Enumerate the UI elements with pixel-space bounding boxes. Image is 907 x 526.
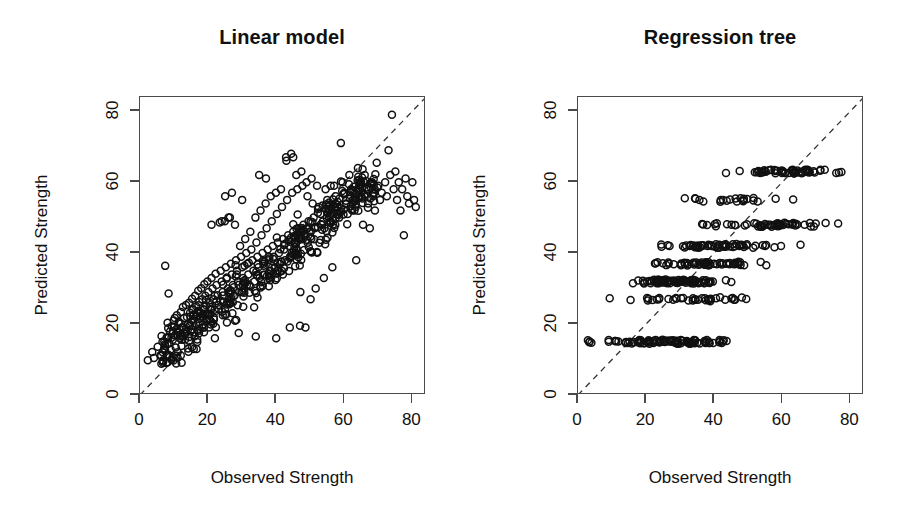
- scatter-canvas-linear-model: [140, 97, 424, 393]
- scatter-point: [371, 207, 378, 214]
- scatter-point: [390, 186, 397, 193]
- y-axis-tick: [130, 251, 139, 252]
- scatter-point: [821, 166, 828, 173]
- scatter-point: [627, 296, 634, 303]
- x-axis-tick-label: 0: [134, 410, 143, 430]
- scatter-point: [268, 218, 275, 225]
- scatter-point: [286, 324, 293, 331]
- scatter-point: [822, 219, 829, 226]
- y-axis-tick-label: 40: [103, 243, 123, 262]
- scatter-point: [763, 262, 770, 269]
- x-axis-tick: [411, 394, 412, 403]
- scatter-point: [373, 159, 380, 166]
- scatter-point: [294, 211, 301, 218]
- scatter-point: [353, 257, 360, 264]
- y-axis-tick-label: 60: [541, 172, 561, 191]
- scatter-point: [411, 196, 418, 203]
- scatter-point: [409, 179, 416, 186]
- scatter-point: [797, 241, 804, 248]
- scatter-point: [404, 193, 411, 200]
- scatter-point: [242, 235, 249, 242]
- x-axis-tick-label: 40: [704, 410, 723, 430]
- scatter-point: [383, 193, 390, 200]
- plot-area-regression-tree: [578, 97, 862, 393]
- scatter-point: [251, 304, 258, 311]
- scatter-point: [239, 196, 246, 203]
- x-axis-tick-label: 20: [636, 410, 655, 430]
- scatter-point: [297, 289, 304, 296]
- scatter-point: [256, 172, 263, 179]
- scatter-point: [400, 232, 407, 239]
- panel-regression-tree: Regression tree 020406080 020406080 Obse…: [453, 0, 906, 526]
- scatter-point: [337, 140, 344, 147]
- scatter-point: [252, 333, 259, 340]
- x-axis-tick: [849, 394, 850, 403]
- scatter-point: [320, 274, 327, 281]
- scatter-point: [312, 285, 319, 292]
- y-axis-tick: [568, 109, 577, 110]
- y-axis-title-regression-tree: Predicted Strength: [470, 175, 490, 316]
- scatter-point: [399, 186, 406, 193]
- scatter-point: [360, 221, 367, 228]
- x-axis-tick-label: 20: [198, 410, 217, 430]
- x-axis-tick: [576, 394, 577, 403]
- y-axis-tick: [568, 322, 577, 323]
- scatter-point: [790, 196, 797, 203]
- x-axis-title-regression-tree: Observed Strength: [577, 468, 863, 488]
- scatter-point: [412, 203, 419, 210]
- y-axis-tick-label: 20: [541, 314, 561, 333]
- y-axis-tick: [130, 322, 139, 323]
- scatter-point: [772, 195, 779, 202]
- scatter-point: [231, 221, 238, 228]
- scatter-point: [722, 169, 729, 176]
- scatter-point: [258, 232, 265, 239]
- scatter-point: [366, 225, 373, 232]
- scatter-point: [681, 195, 688, 202]
- y-axis-tick: [130, 109, 139, 110]
- y-axis-title-linear-model: Predicted Strength: [32, 175, 52, 316]
- y-axis-tick: [568, 393, 577, 394]
- scatter-point: [263, 225, 270, 232]
- scatter-point: [392, 168, 399, 175]
- scatter-point: [262, 200, 269, 207]
- scatter-point: [307, 296, 314, 303]
- scatter-canvas-regression-tree: [578, 97, 862, 393]
- scatter-series-regression-tree: [584, 166, 844, 347]
- x-axis-tick-label: 40: [266, 410, 285, 430]
- x-axis-tick-label: 80: [840, 410, 859, 430]
- scatter-point: [329, 264, 336, 271]
- scatter-point: [382, 179, 389, 186]
- y-axis-tick: [130, 393, 139, 394]
- scatter-point: [252, 214, 259, 221]
- x-axis-tick: [712, 394, 713, 403]
- scatter-point: [237, 243, 244, 250]
- scatter-point: [835, 220, 842, 227]
- scatter-point: [395, 179, 402, 186]
- x-axis-tick: [781, 394, 782, 403]
- scatter-point: [738, 294, 745, 301]
- plot-frame-regression-tree: [577, 96, 863, 394]
- scatter-point: [273, 335, 280, 342]
- figure-panels: Linear model 020406080 020406080 Observe…: [0, 0, 907, 526]
- panel-title-linear-model: Linear model: [139, 26, 425, 49]
- x-axis-tick: [274, 394, 275, 403]
- y-axis-tick-label: 80: [541, 101, 561, 120]
- panel-linear-model: Linear model 020406080 020406080 Observe…: [0, 0, 453, 526]
- x-axis-tick: [206, 394, 207, 403]
- y-axis-tick-label: 40: [541, 243, 561, 262]
- scatter-point: [606, 295, 613, 302]
- scatter-point: [211, 335, 218, 342]
- scatter-point: [743, 296, 750, 303]
- scatter-point: [277, 186, 284, 193]
- y-axis-tick-label: 60: [103, 172, 123, 191]
- scatter-point: [308, 175, 315, 182]
- y-axis-tick-label: 0: [103, 389, 123, 398]
- x-axis-tick: [343, 394, 344, 403]
- x-axis-tick-label: 80: [402, 410, 421, 430]
- x-axis-tick-label: 0: [572, 410, 581, 430]
- y-axis-tick: [130, 180, 139, 181]
- scatter-point: [344, 221, 351, 228]
- scatter-point: [385, 147, 392, 154]
- y-axis-tick-label: 0: [541, 389, 561, 398]
- scatter-point: [223, 319, 230, 326]
